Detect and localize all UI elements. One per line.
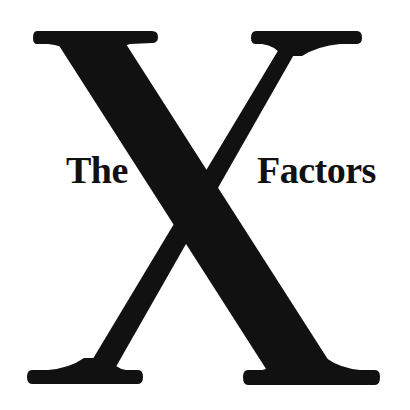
word-factors: Factors (257, 151, 376, 189)
logo-canvas: The Factors (0, 0, 410, 410)
word-the: The (66, 151, 128, 189)
x-letter-glyph (0, 0, 410, 410)
